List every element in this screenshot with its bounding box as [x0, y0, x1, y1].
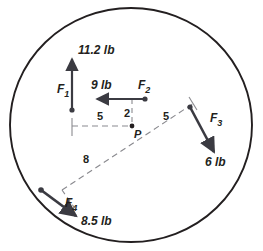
- point-label-p: P: [134, 128, 142, 140]
- diagram-canvas: F1 11.2 lb F2 9 lb F3 6 lb F4 8.5 lb 5 2…: [0, 0, 263, 251]
- dimension-label-left: 5: [97, 110, 103, 122]
- magnitude-label-f1: 11.2 lb: [78, 43, 114, 57]
- force-diagram-figure: F1 11.2 lb F2 9 lb F3 6 lb F4 8.5 lb 5 2…: [0, 0, 263, 251]
- dimension-label-lower: 8: [83, 153, 89, 165]
- force-label-f1: F1: [57, 82, 69, 99]
- force-label-f2: F2: [138, 78, 150, 95]
- magnitude-label-f3: 6 lb: [205, 155, 226, 169]
- force-vector-f1: [69, 59, 74, 113]
- force-vector-f2: [97, 96, 148, 101]
- dimension-label-right: 5: [163, 110, 169, 122]
- dimension-label-mid: 2: [124, 107, 130, 119]
- force-label-f3: F3: [210, 111, 222, 128]
- magnitude-label-f2: 9 lb: [91, 78, 112, 92]
- magnitude-label-f4: 8.5 lb: [81, 214, 112, 228]
